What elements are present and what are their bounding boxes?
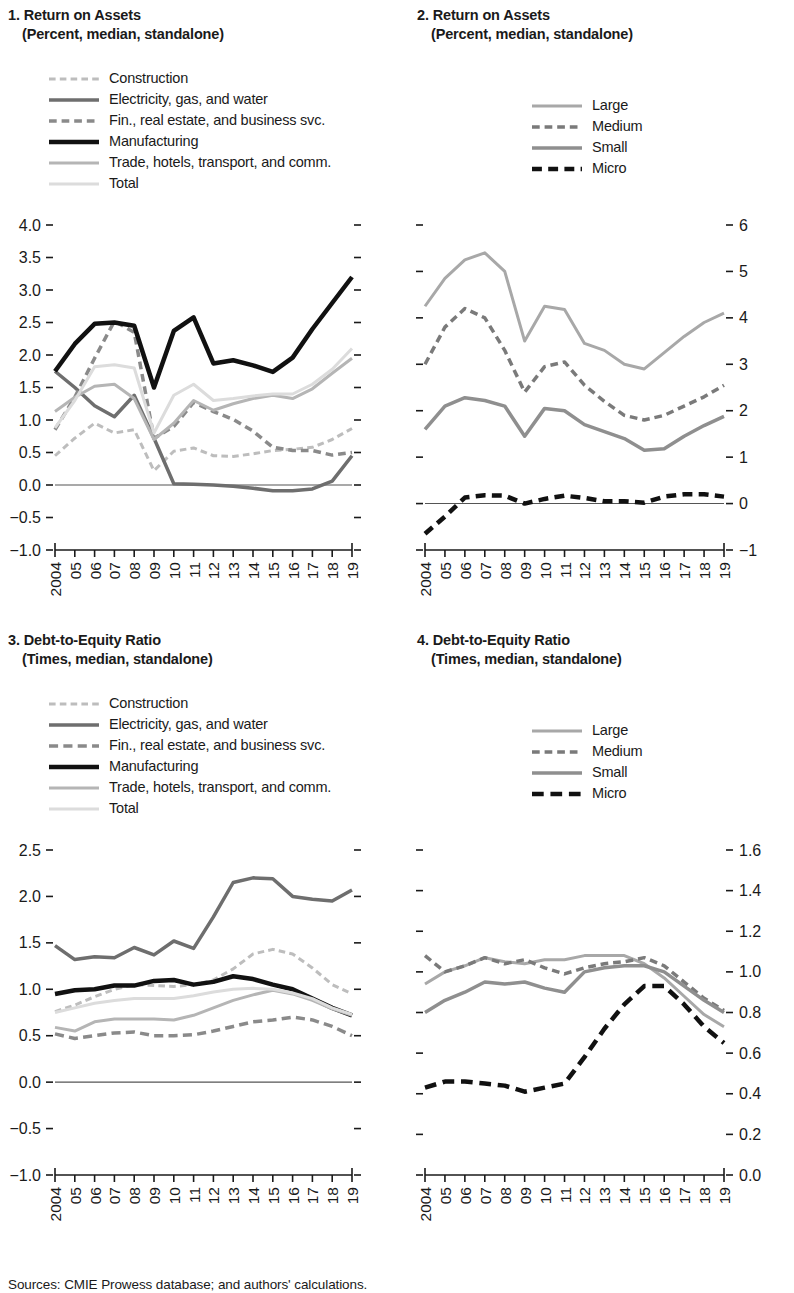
- x-tick-label: 09: [517, 562, 534, 579]
- panel-3-plot: −1.0−0.50.00.51.01.52.02.520040506070809…: [0, 840, 397, 1245]
- x-tick-label: 18: [696, 1187, 713, 1204]
- x-tick-label: 09: [517, 1187, 534, 1204]
- x-tick-label: 18: [696, 562, 713, 579]
- x-tick-label: 14: [245, 562, 262, 580]
- x-tick-label: 13: [596, 562, 613, 579]
- panel-return-on-assets-sector: 1. Return on Assets (Percent, median, st…: [0, 0, 397, 625]
- panel-4-heading: Debt-to-Equity Ratio: [433, 632, 570, 648]
- legend-swatch-micro-icon: [531, 787, 583, 801]
- x-tick-label: 17: [676, 1187, 693, 1204]
- x-tick-label: 15: [265, 1187, 282, 1204]
- y-tick-label: 0.8: [739, 1004, 761, 1021]
- legend-item-total[interactable]: Total: [48, 173, 331, 194]
- x-tick-label: 19: [716, 1187, 733, 1204]
- x-tick-label: 06: [87, 1187, 104, 1204]
- legend-label-trade: Trade, hotels, transport, and comm.: [109, 777, 331, 798]
- legend-item-medium[interactable]: Medium: [531, 116, 642, 137]
- x-tick-label: 18: [324, 1187, 341, 1204]
- legend-label-small: Small: [592, 762, 627, 783]
- series-line-manufacturing: [55, 277, 352, 388]
- panel-2-subtitle: (Percent, median, standalone): [417, 25, 633, 44]
- series-line-small: [425, 398, 724, 450]
- x-tick-label: 05: [437, 1187, 454, 1204]
- panel-4-number: 4.: [417, 632, 429, 648]
- legend-item-construction[interactable]: Construction: [48, 68, 331, 89]
- x-tick-label: 14: [616, 1187, 633, 1205]
- x-tick-label: 15: [636, 562, 653, 579]
- series-line-micro: [425, 986, 724, 1092]
- x-tick-label: 12: [205, 562, 222, 579]
- x-tick-label: 15: [636, 1187, 653, 1204]
- panel-1-legend: ConstructionElectricity, gas, and waterF…: [48, 68, 331, 194]
- y-tick-label: 0.5: [19, 444, 41, 461]
- legend-label-construction: Construction: [109, 693, 188, 714]
- legend-item-small[interactable]: Small: [531, 137, 642, 158]
- legend-swatch-trade-icon: [48, 781, 100, 795]
- y-tick-label: −1: [739, 542, 757, 559]
- legend-label-finance: Fin., real estate, and business svc.: [109, 735, 325, 756]
- legend-item-trade[interactable]: Trade, hotels, transport, and comm.: [48, 152, 331, 173]
- legend-label-total: Total: [109, 798, 139, 819]
- legend-item-electricity[interactable]: Electricity, gas, and water: [48, 714, 331, 735]
- legend-label-manufacturing: Manufacturing: [109, 756, 198, 777]
- x-tick-label: 18: [324, 562, 341, 579]
- panel-2-legend: LargeMediumSmallMicro: [531, 95, 642, 179]
- y-tick-label: 1.2: [739, 923, 761, 940]
- x-tick-label: 2004: [417, 562, 434, 597]
- y-tick-label: 0.4: [739, 1085, 761, 1102]
- y-tick-label: 2: [739, 402, 748, 419]
- series-line-construction: [55, 423, 352, 470]
- legend-item-large[interactable]: Large: [531, 720, 642, 741]
- legend-item-medium[interactable]: Medium: [531, 741, 642, 762]
- legend-item-finance[interactable]: Fin., real estate, and business svc.: [48, 110, 331, 131]
- x-tick-label: 16: [656, 562, 673, 579]
- x-tick-label: 13: [596, 1187, 613, 1204]
- x-tick-label: 10: [537, 1187, 554, 1205]
- legend-item-manufacturing[interactable]: Manufacturing: [48, 756, 331, 777]
- x-tick-label: 08: [497, 1187, 514, 1204]
- legend-swatch-manufacturing-icon: [48, 135, 100, 149]
- legend-label-small: Small: [592, 137, 627, 158]
- y-tick-label: 0.6: [739, 1045, 761, 1062]
- y-tick-label: 1.5: [19, 934, 41, 951]
- x-tick-label: 06: [87, 562, 104, 579]
- legend-swatch-construction-icon: [48, 697, 100, 711]
- x-tick-label: 17: [304, 1187, 321, 1204]
- legend-item-construction[interactable]: Construction: [48, 693, 331, 714]
- legend-item-micro[interactable]: Micro: [531, 158, 642, 179]
- panel-2-plot: −101234562004050607080910111213141516171…: [397, 215, 794, 620]
- y-tick-label: 1.6: [739, 842, 761, 859]
- legend-item-finance[interactable]: Fin., real estate, and business svc.: [48, 735, 331, 756]
- y-tick-label: 1.0: [19, 981, 41, 998]
- legend-item-large[interactable]: Large: [531, 95, 642, 116]
- panel-3-svg: −1.0−0.50.00.51.01.52.02.520040506070809…: [0, 840, 397, 1245]
- legend-swatch-total-icon: [48, 802, 100, 816]
- legend-swatch-trade-icon: [48, 156, 100, 170]
- y-tick-label: 0.0: [19, 477, 41, 494]
- legend-item-small[interactable]: Small: [531, 762, 642, 783]
- legend-item-micro[interactable]: Micro: [531, 783, 642, 804]
- panel-4-title: 4. Debt-to-Equity Ratio (Times, median, …: [417, 631, 622, 669]
- x-tick-label: 11: [557, 1187, 574, 1203]
- panel-debt-to-equity-size: 4. Debt-to-Equity Ratio (Times, median, …: [397, 625, 794, 1250]
- legend-swatch-electricity-icon: [48, 93, 100, 107]
- legend-item-electricity[interactable]: Electricity, gas, and water: [48, 89, 331, 110]
- x-tick-label: 11: [186, 562, 203, 578]
- panel-2-number: 2.: [417, 7, 429, 23]
- legend-label-construction: Construction: [109, 68, 188, 89]
- y-tick-label: 3.0: [19, 282, 41, 299]
- panel-2-title: 2. Return on Assets (Percent, median, st…: [417, 6, 633, 44]
- legend-label-medium: Medium: [592, 116, 642, 137]
- legend-swatch-small-icon: [531, 141, 583, 155]
- legend-item-manufacturing[interactable]: Manufacturing: [48, 131, 331, 152]
- x-tick-label: 06: [457, 562, 474, 579]
- x-tick-label: 09: [146, 562, 163, 579]
- panel-4-svg: 0.00.20.40.60.81.01.21.41.62004050607080…: [397, 840, 794, 1245]
- legend-swatch-manufacturing-icon: [48, 760, 100, 774]
- x-tick-label: 08: [126, 1187, 143, 1204]
- legend-swatch-small-icon: [531, 766, 583, 780]
- legend-item-total[interactable]: Total: [48, 798, 331, 819]
- legend-swatch-construction-icon: [48, 72, 100, 86]
- legend-swatch-finance-icon: [48, 739, 100, 753]
- legend-item-trade[interactable]: Trade, hotels, transport, and comm.: [48, 777, 331, 798]
